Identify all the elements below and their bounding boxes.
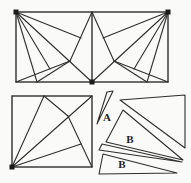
label-b-bottom: B: [118, 158, 126, 170]
dissection-figure: ABB: [0, 0, 191, 183]
label-b-middle: B: [126, 133, 134, 145]
diagram-svg: ABB: [0, 0, 191, 183]
dot-rect-top-right: [166, 10, 171, 15]
dot-square-bottom-left: [10, 165, 15, 170]
dot-rect-bottom-mid: [90, 80, 95, 85]
label-a: A: [103, 111, 111, 123]
dot-rect-top-left: [14, 10, 19, 15]
